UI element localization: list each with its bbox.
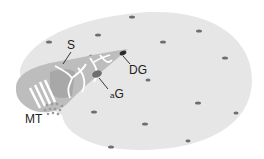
label-aG: aG (110, 88, 124, 100)
label-aG-main: G (114, 87, 123, 101)
label-MT: MT (25, 113, 42, 125)
dark-region (50, 69, 75, 98)
label-S: S (67, 39, 75, 51)
label-DG: DG (129, 64, 147, 76)
cell-diagram (0, 0, 264, 159)
